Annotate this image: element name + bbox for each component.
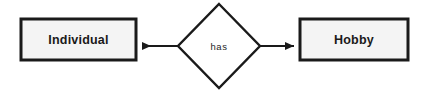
er-diagram: Individual Hobby has: [0, 0, 429, 96]
entity-individual-box: [21, 19, 136, 60]
entity-hobby-box: [300, 19, 408, 60]
er-diagram-canvas: [0, 0, 429, 96]
relationship-has-diamond: [178, 4, 260, 88]
